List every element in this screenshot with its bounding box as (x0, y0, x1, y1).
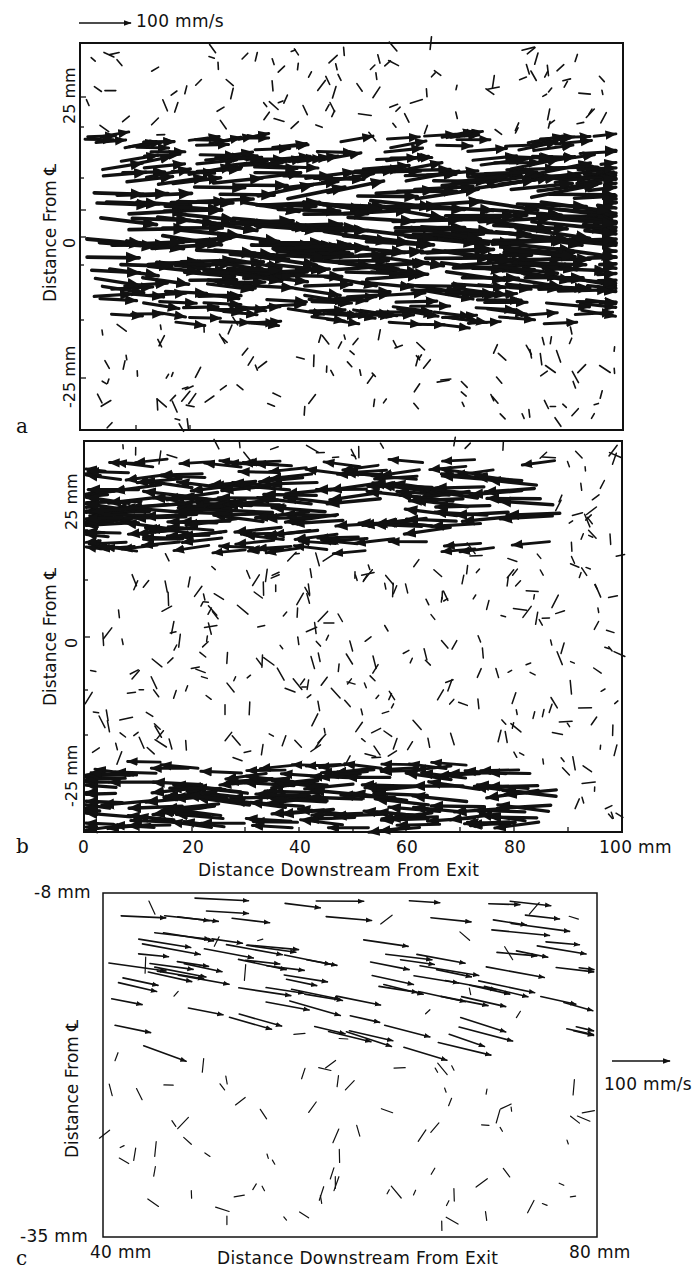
panel-b-letter: b (16, 834, 29, 858)
panel-b-xtick-100: 100 mm (599, 837, 672, 857)
figure-canvas (0, 0, 697, 1274)
panel-a-ytick-0: 0 (60, 238, 79, 248)
panel-b-xlabel: Distance Downstream From Exit (198, 860, 479, 880)
vector-field-c (99, 898, 594, 1230)
scale-label-c: 100 mm/s (604, 1074, 692, 1094)
panel-b-ytick-neg25: -25 mm (62, 745, 81, 807)
panel-c-ytick-top: -8 mm (34, 882, 91, 902)
panel-b-xtick-0: 0 (78, 837, 89, 857)
panel-b-ytick-0: 0 (62, 638, 81, 648)
panel-b-ylabel: Distance From ℄ (40, 568, 60, 706)
panel-c-xlabel: Distance Downstream From Exit (217, 1248, 498, 1268)
panel-c-ytick-bottom: -35 mm (20, 1226, 88, 1246)
vector-field-b (85, 437, 625, 832)
panel-b-xtick-60: 60 (396, 837, 418, 857)
panel-c-ylabel: Distance From ℄ (62, 1020, 82, 1158)
scale-label-top: 100 mm/s (136, 11, 224, 31)
panel-b-xtick-20: 20 (182, 837, 204, 857)
panel-a-ytick-neg25: -25 mm (60, 346, 79, 408)
panel-a-ytick-25: 25 mm (60, 67, 79, 124)
panel-a-letter: a (16, 414, 28, 438)
vector-field-a (85, 37, 616, 432)
panel-a-ylabel: Distance From ℄ (40, 164, 60, 302)
panel-c-xtick-right: 80 mm (569, 1242, 631, 1262)
panel-c-letter: c (16, 1246, 27, 1270)
panel-b-ytick-25: 25 mm (62, 473, 81, 530)
panel-c-xtick-left: 40 mm (90, 1242, 152, 1262)
panel-b-xtick-40: 40 (289, 837, 311, 857)
panel-b-xtick-80: 80 (504, 837, 526, 857)
